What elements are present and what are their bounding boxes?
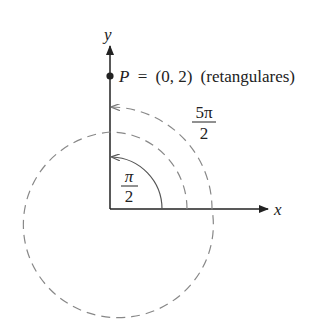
point-p-label: P = (0, 2) (retangulares)	[118, 67, 295, 86]
fraction-denominator: 2	[200, 124, 209, 143]
point-equals: =	[138, 67, 148, 86]
y-axis-label: y	[102, 25, 112, 44]
angle-pi-over-2-arc	[112, 157, 162, 209]
point-p-marker	[106, 72, 113, 79]
point-note: (retangulares)	[201, 67, 295, 86]
x-axis-label: x	[273, 200, 282, 219]
angle-5pi-over-2-spiral	[23, 107, 213, 318]
angle-pi-over-2-label: π 2	[121, 167, 138, 206]
point-coords: (0, 2)	[155, 67, 192, 86]
fraction-numerator: 5π	[195, 103, 213, 122]
point-name: P	[118, 67, 129, 86]
angle-5pi-over-2-label: 5π 2	[192, 103, 216, 143]
polar-diagram: y x P = (0, 2) (retangulares) π 2 5π 2	[0, 0, 333, 336]
fraction-numerator: π	[125, 167, 134, 186]
fraction-denominator: 2	[125, 187, 134, 206]
